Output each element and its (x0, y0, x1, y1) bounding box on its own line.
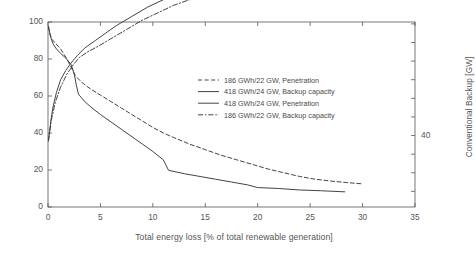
series-line-3 (49, 0, 363, 141)
legend: 186 GWh/22 GW, Penetration418 GWh/24 GW,… (198, 76, 335, 120)
figure-canvas: Penetration [% of annual demand] Convent… (0, 0, 476, 253)
legend-label-1: 418 GWh/24 GW, Backup capacity (224, 87, 335, 96)
legend-label-0: 186 GWh/22 GW, Penetration (224, 76, 319, 85)
legend-label-2: 418 GWh/24 GW, Penetration (224, 99, 319, 108)
series-line-2 (49, 27, 345, 192)
plot-area: 186 GWh/22 GW, Penetration418 GWh/24 GW,… (0, 0, 476, 253)
legend-label-3: 186 GWh/22 GW, Backup capacity (224, 111, 335, 120)
